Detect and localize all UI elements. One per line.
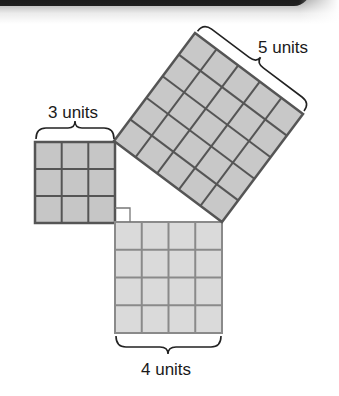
square-5-units (114, 33, 303, 222)
pythagorean-diagram: 3 units 4 units 5 units (0, 0, 339, 396)
square-4-units (115, 222, 222, 333)
label-5-units: 5 units (258, 38, 308, 57)
label-3-units: 3 units (48, 103, 98, 122)
brace-3-units (36, 121, 114, 139)
brace-4-units (116, 336, 221, 354)
square-3-units (35, 142, 115, 223)
right-angle-marker (115, 208, 130, 222)
label-4-units: 4 units (141, 360, 191, 379)
